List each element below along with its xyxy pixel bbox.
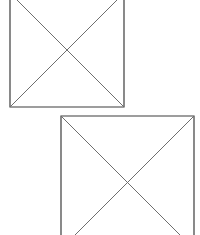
two-squares-with-diagonals-figure	[0, 0, 200, 235]
figure-background	[0, 0, 200, 235]
figure-canvas	[0, 0, 200, 235]
